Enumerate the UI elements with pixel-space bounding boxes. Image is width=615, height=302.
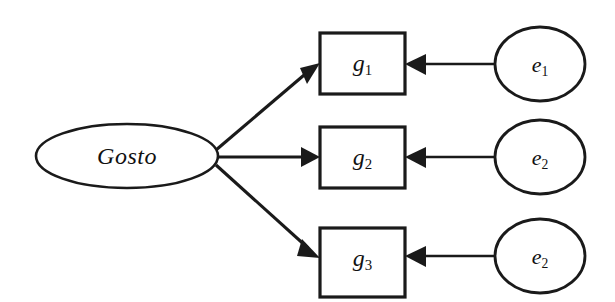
arrowhead-e3-g3 <box>405 246 426 267</box>
arrowhead-e2-g2 <box>405 147 426 168</box>
latent-label-gosto: Gosto <box>37 143 217 170</box>
edge-e1-to-g1 <box>405 54 495 75</box>
error-label-e1-base: e <box>532 52 542 77</box>
indicator-label-g1-sub: 1 <box>365 62 372 78</box>
indicator-label-g3-base: g <box>353 245 365 271</box>
error-label-e2-sub: 2 <box>541 157 548 172</box>
error-label-e2: e2 <box>495 145 585 173</box>
error-label-e3: e2 <box>495 244 585 272</box>
error-label-e3-sub: 2 <box>541 256 548 271</box>
edge-line-gosto-g1 <box>216 70 310 150</box>
indicator-label-g2-base: g <box>353 144 365 170</box>
edge-e3-to-g3 <box>405 246 495 267</box>
indicator-label-g2-sub: 2 <box>365 156 372 172</box>
error-label-e3-base: e <box>532 244 542 269</box>
error-label-e2-base: e <box>532 145 542 170</box>
arrowhead-e1-g1 <box>405 54 426 75</box>
edge-e2-to-g2 <box>405 147 495 168</box>
arrowhead-gosto-g1 <box>300 63 320 84</box>
edge-gosto-to-g2 <box>218 147 320 167</box>
edge-gosto-to-g1 <box>216 63 320 150</box>
indicator-label-g2: g2 <box>320 144 405 173</box>
arrowhead-gosto-g2 <box>301 147 320 167</box>
indicator-label-g3: g3 <box>320 245 405 274</box>
error-label-e1-sub: 1 <box>541 64 548 79</box>
error-label-e1: e1 <box>495 52 585 80</box>
indicator-label-g1-base: g <box>353 50 365 76</box>
indicator-label-g3-sub: 3 <box>365 257 372 273</box>
edge-gosto-to-g3 <box>216 165 320 258</box>
path-diagram-canvas: Gosto g1 g2 g3 e1 e2 e2 <box>0 0 615 302</box>
indicator-label-g1: g1 <box>320 50 405 79</box>
edge-line-gosto-g3 <box>216 165 308 248</box>
